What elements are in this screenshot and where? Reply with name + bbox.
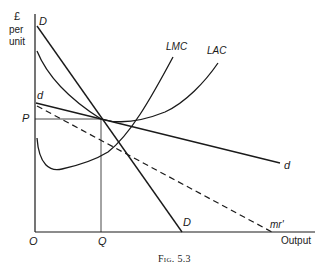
diagram-canvas <box>0 0 329 273</box>
marginal-revenue-curve <box>37 106 272 232</box>
lac-curve <box>101 63 218 122</box>
figure-caption: Fig. 5.3 <box>158 253 191 264</box>
demand-curve-dd <box>36 103 280 163</box>
upper-cost-curve <box>37 51 101 119</box>
x-axis-label: Output <box>281 236 311 246</box>
label-LAC: LAC <box>207 46 226 56</box>
y-axis-label-per: per <box>9 25 23 35</box>
label-D-bottom: D <box>183 217 191 228</box>
label-d-right: d <box>284 160 290 171</box>
label-D-top: D <box>39 16 47 27</box>
label-d-left: d <box>37 90 43 101</box>
y-axis-label-unit: unit <box>9 37 25 47</box>
label-LMC: LMC <box>166 42 187 52</box>
label-O: O <box>29 236 38 247</box>
demand-curve-DD <box>37 26 182 232</box>
lmc-curve <box>37 57 173 170</box>
label-mr: mr' <box>270 220 284 230</box>
label-P: P <box>22 113 29 124</box>
label-Q: Q <box>98 236 107 247</box>
y-axis-label-pound: £ <box>14 11 20 22</box>
